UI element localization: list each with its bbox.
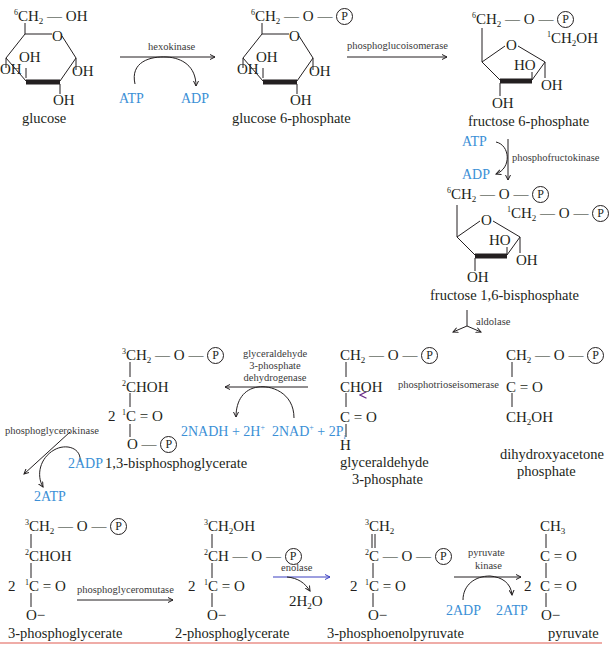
pyruvate-coef: 2 bbox=[524, 579, 532, 594]
phosphofructokinase-label: phosphofructokinase bbox=[512, 153, 599, 164]
aldolase-label: aldolase bbox=[476, 317, 510, 328]
f6p-label: fructose 6-phosphate bbox=[468, 114, 589, 129]
bpg13-line-1: 3CH2 — O — P bbox=[122, 348, 224, 365]
gapdh-label-1: glyceraldehyde bbox=[235, 349, 315, 360]
enolase-arrow bbox=[273, 577, 330, 591]
pep-label: 3-phosphoenolpyruvate bbox=[327, 626, 464, 641]
glucose-ring bbox=[6, 23, 76, 94]
f16bp-ho: HO bbox=[489, 233, 511, 248]
pg2-line-4: O− bbox=[207, 608, 226, 623]
glucose-oh-1: OH bbox=[19, 50, 41, 65]
pep-line-3: 1C = O bbox=[365, 579, 406, 594]
dhap-line-3: CH2OH bbox=[506, 410, 553, 427]
hexokinase-atp: ATP bbox=[119, 92, 144, 106]
f6p-ho: HO bbox=[514, 58, 536, 73]
pg2-coef: 2 bbox=[188, 579, 196, 594]
dhap-label-1: dihydroxyacetone bbox=[500, 447, 604, 462]
enolase-water: 2H2O bbox=[289, 594, 323, 611]
ring-oxygen: O bbox=[506, 38, 517, 53]
f6p-oh-1: OH bbox=[541, 78, 563, 93]
g6p-label: glucose 6-phosphate bbox=[232, 111, 351, 126]
pg2-label: 2-phosphoglycerate bbox=[175, 626, 289, 641]
phosphate-icon: P bbox=[110, 518, 127, 535]
pyruvate-line-2: C = O bbox=[540, 549, 577, 564]
pep-line-1: 3CH2 bbox=[365, 519, 394, 536]
pg2-line-3: 1C = O bbox=[204, 579, 245, 594]
pg3-line-1: 3CH2 — O — P bbox=[25, 519, 127, 536]
phosphate-icon: P bbox=[592, 205, 609, 222]
glucose-oh-4: OH bbox=[53, 93, 75, 108]
f16bp-oh-1: OH bbox=[516, 253, 538, 268]
hexokinase-adp: ADP bbox=[181, 92, 209, 106]
bpg13-line-2: 2CHOH bbox=[122, 380, 169, 395]
ring-oxygen: O bbox=[52, 29, 63, 44]
pfk-adp: ADP bbox=[462, 168, 490, 182]
hexokinase-arrow bbox=[120, 57, 215, 86]
gap-line-3: C = O bbox=[340, 410, 377, 425]
pg3-label: 3-phosphoglycerate bbox=[8, 626, 122, 641]
f16bp-c1-group: 1CH2 — O — P bbox=[507, 206, 609, 223]
pg3-line-4: O− bbox=[26, 608, 45, 623]
dhap-line-1: CH2 — O — P bbox=[506, 348, 604, 365]
g6p-ring bbox=[243, 23, 313, 94]
pg3-coef: 2 bbox=[8, 579, 16, 594]
phosphate-icon: P bbox=[421, 347, 438, 364]
pg3-line-3: 1C = O bbox=[25, 579, 66, 594]
g6p-oh-3: OH bbox=[309, 64, 331, 79]
pgk-adp: 2ADP bbox=[68, 457, 103, 471]
enolase-label: enolase bbox=[281, 563, 313, 574]
gap-label-2: 3-phosphate bbox=[352, 472, 423, 487]
gap-line-1: CH2 — O — P bbox=[340, 348, 438, 365]
pyruvate-line-4: O− bbox=[541, 608, 560, 623]
phosphate-icon: P bbox=[532, 186, 549, 203]
pg2-line-1: 3CH2OH bbox=[204, 519, 255, 536]
pyruvate-label: pyruvate bbox=[548, 626, 599, 641]
gapdh-nad: 2NAD+ + 2Pi bbox=[272, 424, 346, 441]
phosphofructokinase-arrow bbox=[496, 139, 508, 180]
pfk-atp: ATP bbox=[462, 135, 487, 149]
f16bp-label: fructose 1,6-bisphosphate bbox=[430, 288, 579, 303]
bpg13-line-3: 1C = O bbox=[122, 409, 163, 424]
g6p-oh-1: OH bbox=[256, 50, 278, 65]
pgk-atp: 2ATP bbox=[34, 490, 66, 504]
f16bp-c6-group: 6CH2 — O — P bbox=[447, 187, 549, 204]
phosphate-icon: P bbox=[207, 347, 224, 364]
bpg13-coef: 2 bbox=[108, 409, 116, 424]
g6p-oh-4: OH bbox=[290, 93, 312, 108]
f6p-c1-group: 1CH2OH bbox=[547, 31, 598, 48]
phosphate-icon: P bbox=[587, 347, 604, 364]
g6p-oh-2: OH bbox=[237, 62, 259, 77]
ring-oxygen: O bbox=[481, 213, 492, 228]
pk-adp: 2ADP bbox=[446, 604, 481, 618]
phosphoglucoisomerase-label: phosphoglucoisomerase bbox=[347, 41, 448, 52]
phosphate-icon: P bbox=[557, 11, 574, 28]
pyruvate-kinase-arrow bbox=[454, 576, 521, 600]
f6p-c6-group: 6CH2 — O — P bbox=[472, 12, 574, 29]
glucose-c6-group: 6CH2 — OH bbox=[14, 9, 88, 26]
dhap-label-2: phosphate bbox=[517, 464, 576, 479]
g6p-c6-group: 6CH2 — O — P bbox=[251, 9, 353, 26]
pyruvate-kinase-label-1: pyruvate bbox=[468, 548, 505, 559]
bpg13-label: 1,3-bisphosphoglycerate bbox=[105, 456, 247, 471]
phosphoglyceromutase-label: phosphoglyceromutase bbox=[77, 585, 174, 596]
gapdh-nadh: 2NADH + 2H+ bbox=[181, 424, 265, 439]
pep-line-2: 2C — O — P bbox=[365, 549, 452, 565]
pyruvate-line-3: C = O bbox=[540, 579, 577, 594]
phosphotrioseisomerase-label: phosphotrioseisomerase bbox=[398, 380, 499, 391]
phosphate-icon: P bbox=[336, 8, 353, 25]
pk-atp: 2ATP bbox=[496, 604, 528, 618]
gap-label-1: glyceraldehyde bbox=[340, 455, 429, 470]
glucose-oh-2: OH bbox=[0, 62, 22, 77]
glucose-label: glucose bbox=[22, 111, 66, 126]
glucose-oh-3: OH bbox=[72, 64, 94, 79]
pg3-line-2: 2CHOH bbox=[25, 549, 72, 564]
gap-line-2: CHOH bbox=[340, 380, 383, 395]
hexokinase-label: hexokinase bbox=[148, 42, 195, 53]
gapdh-label-3: dehydrogenase bbox=[235, 373, 315, 384]
phosphoglycerokinase-label: phosphoglycerokinase bbox=[5, 426, 99, 437]
phosphate-icon: P bbox=[435, 548, 452, 565]
f16bp-oh-2: OH bbox=[467, 270, 489, 285]
ring-oxygen: O bbox=[289, 29, 300, 44]
dhap-line-2: C = O bbox=[506, 380, 543, 395]
pyruvate-line-1: CH3 bbox=[540, 519, 565, 536]
